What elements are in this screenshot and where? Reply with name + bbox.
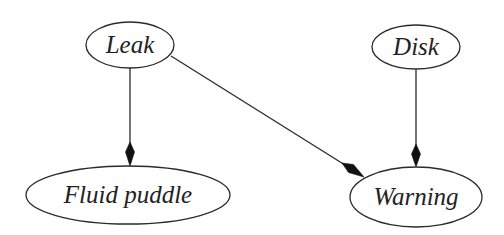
arrowhead-icon <box>342 163 364 177</box>
edge-leak-to-fluid-puddle <box>126 68 135 166</box>
edge-line <box>171 56 345 165</box>
bayesian-network-diagram: Leak Disk Fluid puddle Warning <box>0 0 504 235</box>
node-leak[interactable]: Leak <box>86 22 174 68</box>
node-label-fluid-puddle: Fluid puddle <box>63 181 192 208</box>
node-warning[interactable]: Warning <box>350 167 482 227</box>
edges <box>126 56 421 177</box>
node-disk[interactable]: Disk <box>372 25 460 69</box>
arrowhead-icon <box>126 142 135 166</box>
node-label-disk: Disk <box>392 33 440 60</box>
node-label-leak: Leak <box>105 31 156 58</box>
edge-disk-to-warning <box>412 69 421 167</box>
edge-leak-to-warning <box>171 56 364 177</box>
node-label-warning: Warning <box>373 183 458 210</box>
node-fluid-puddle[interactable]: Fluid puddle <box>26 166 230 224</box>
arrowhead-icon <box>412 144 421 167</box>
nodes: Leak Disk Fluid puddle Warning <box>26 22 482 227</box>
